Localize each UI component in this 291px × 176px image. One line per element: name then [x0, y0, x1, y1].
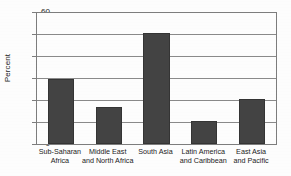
- bar-sub-saharan-africa: [48, 79, 74, 145]
- bar-east-asia-pacific: [239, 99, 265, 144]
- bar-chart-figure: Percent 60 50 40 30 20 10 0 Sub-Saharan …: [0, 0, 291, 176]
- chart-title-cropped: [0, 0, 291, 3]
- plot-area: [36, 12, 277, 145]
- y-axis-title: Percent: [3, 33, 15, 103]
- bar-middle-east-north-africa: [96, 107, 122, 144]
- bar-south-asia: [143, 33, 169, 144]
- bar-latin-america-caribbean: [191, 121, 217, 144]
- x-label-east-asia-pacific: East Asia and Pacific: [219, 147, 283, 165]
